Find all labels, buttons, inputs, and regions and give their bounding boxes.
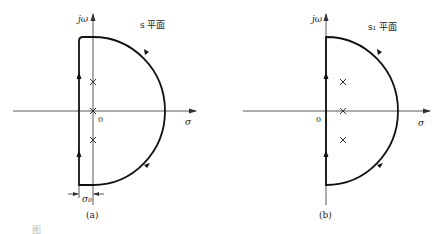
sigma0-label: σ₀: [82, 194, 92, 204]
contour-arrow-icon: [324, 150, 329, 157]
origin-label-a: 0: [98, 115, 103, 124]
panel-a: jω s 平面 0 σ σ₀ (a): [13, 14, 196, 220]
contour-arrow-icon: [377, 163, 383, 168]
figure-caption: 图: [32, 225, 41, 234]
pole-marker-icon: [340, 79, 346, 85]
panel-b: jω s₁ 平面 0 σ (b): [243, 14, 430, 220]
subcaption-a: (a): [86, 210, 98, 220]
contour-arrow-icon: [144, 163, 150, 168]
contour-arrow-icon: [377, 49, 382, 55]
contour-arrow-icon: [144, 49, 149, 55]
plane-label-a: s 平面: [140, 20, 165, 30]
jw-label-b: jω: [310, 14, 323, 24]
contour-arrow-icon: [77, 150, 82, 157]
contour-arrow-icon: [77, 72, 82, 79]
contour-arrow-icon: [324, 72, 329, 79]
sigma-label-a: σ: [185, 117, 192, 127]
origin-label-b: 0: [316, 115, 321, 124]
pole-marker-icon: [340, 137, 346, 143]
jw-label-a: jω: [76, 14, 89, 24]
contour-b: [326, 37, 398, 186]
subcaption-b: (b): [319, 210, 332, 220]
sigma-label-b: σ: [418, 118, 425, 128]
nyquist-contour-figure: jω s 平面 0 σ σ₀ (a) jω s₁ 平面 0 σ (b) 图: [0, 0, 440, 234]
plane-label-b: s₁ 平面: [368, 22, 397, 32]
